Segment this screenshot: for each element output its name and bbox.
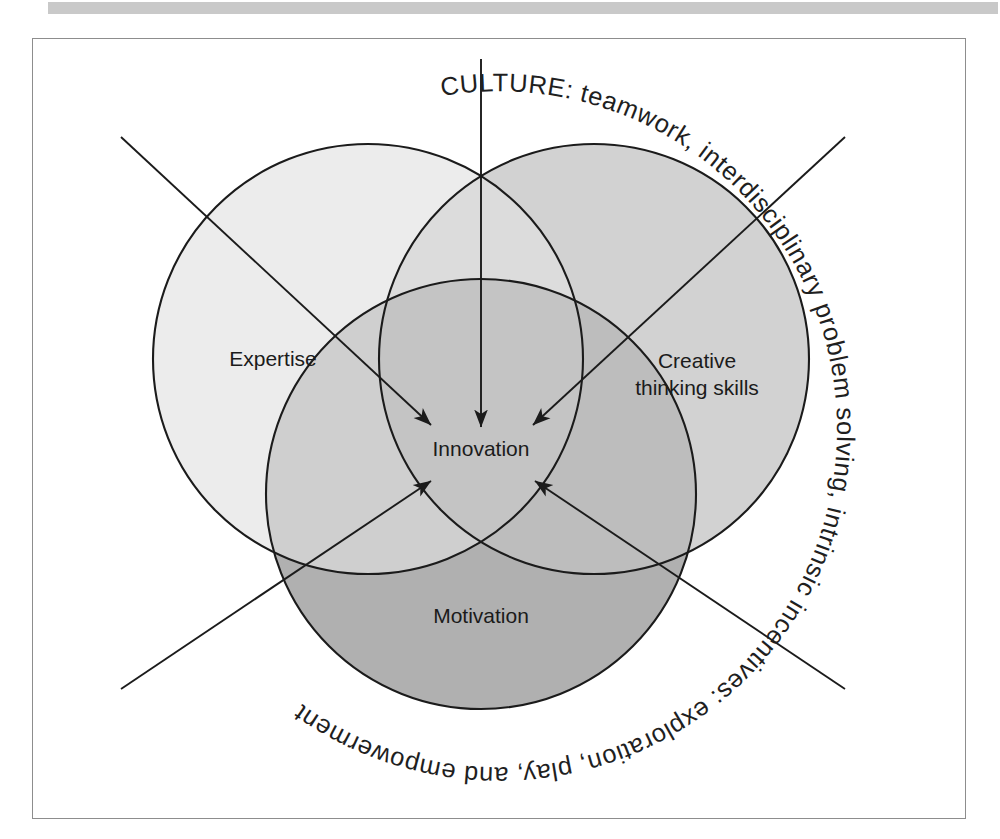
page-top-gray-band: [48, 2, 998, 14]
label-expertise: Expertise: [229, 347, 317, 370]
figure-page: Expertise Creative thinking skills Motiv…: [0, 0, 1000, 839]
label-innovation: Innovation: [433, 437, 530, 460]
label-motivation: Motivation: [433, 604, 529, 627]
label-creative-thinking-line1: Creative: [658, 349, 736, 372]
label-creative-thinking-line2: thinking skills: [635, 376, 759, 399]
figure-frame: Expertise Creative thinking skills Motiv…: [32, 38, 966, 819]
venn-diagram-svg: Expertise Creative thinking skills Motiv…: [33, 39, 964, 817]
